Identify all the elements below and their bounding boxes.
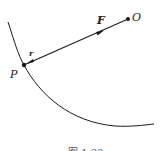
label-p: P (9, 68, 18, 81)
label-o: O (132, 11, 141, 24)
force-arrow-icon (96, 31, 104, 36)
point-p-dot (22, 63, 26, 67)
radius-arrow-icon (26, 59, 34, 64)
point-o-dot (126, 17, 130, 21)
force-diagram: O P F r 图 1-22 (0, 0, 161, 151)
radius-line (24, 19, 128, 65)
label-r: r (29, 48, 34, 58)
trajectory-curve (8, 22, 154, 126)
figure-caption: 图 1-22 (68, 147, 104, 151)
label-f: F (96, 14, 106, 27)
